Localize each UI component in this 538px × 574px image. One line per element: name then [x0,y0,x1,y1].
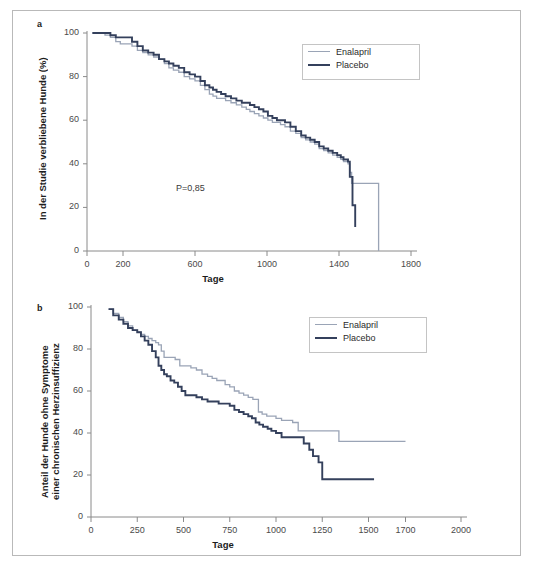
panel-a-x-axis-label: Tage [163,273,263,284]
x-tick-label: 1700 [386,525,426,535]
x-tick-label: 1250 [302,525,342,535]
legend-item-placebo: Placebo [310,331,426,344]
figure-frame: a In der Studie verbliebene Hunde (%) Ta… [12,10,521,556]
legend-label-placebo: Placebo [343,333,376,343]
y-tick-label: 100 [57,301,83,311]
y-tick-label: 80 [53,71,79,81]
y-tick-label: 60 [57,385,83,395]
legend-label-enalapril: Enalapril [343,320,378,330]
x-tick-label: 200 [103,259,143,269]
panel-a-legend: Enalapril Placebo [302,44,420,80]
panel-b-legend: Enalapril Placebo [309,317,427,353]
chart-panel-a: a In der Studie verbliebene Hunde (%) Ta… [13,11,522,291]
legend-item-placebo: Placebo [303,58,419,71]
y-tick-label: 40 [57,427,83,437]
legend-swatch-enalapril [315,324,337,325]
y-tick-label: 20 [57,469,83,479]
legend-label-placebo: Placebo [336,60,369,70]
x-tick-label: 1000 [247,259,287,269]
legend-item-enalapril: Enalapril [310,318,426,331]
legend-swatch-placebo [308,64,330,66]
y-tick-label: 100 [53,27,79,37]
x-tick-label: 1000 [256,525,296,535]
x-tick-label: 250 [117,525,157,535]
panel-b-plot-area [13,295,522,557]
legend-swatch-enalapril [308,51,330,52]
legend-item-enalapril: Enalapril [303,45,419,58]
chart-panel-b: b Anteil der Hunde ohne Symptome einer c… [13,295,522,557]
y-tick-label: 40 [53,158,79,168]
y-tick-label: 80 [57,343,83,353]
x-tick-label: 2000 [441,525,481,535]
panel-a-plot-area [13,11,522,291]
x-tick-label: 1400 [319,259,359,269]
y-tick-label: 20 [53,201,79,211]
x-tick-label: 0 [71,525,111,535]
legend-label-enalapril: Enalapril [336,47,371,57]
x-tick-label: 1800 [391,259,431,269]
y-tick-label: 60 [53,114,79,124]
y-tick-label: 0 [53,245,79,255]
x-tick-label: 750 [210,525,250,535]
x-tick-label: 0 [67,259,107,269]
x-tick-label: 600 [175,259,215,269]
x-tick-label: 500 [164,525,204,535]
legend-swatch-placebo [315,337,337,339]
panel-a-pvalue-annotation: P=0,85 [176,183,205,193]
panel-b-x-axis-label: Tage [173,539,273,550]
x-tick-label: 1500 [349,525,389,535]
y-tick-label: 0 [57,511,83,521]
